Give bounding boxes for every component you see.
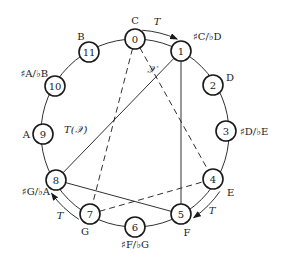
node-pc-2: 2D <box>203 72 234 95</box>
node-number: 8 <box>53 175 59 186</box>
node-number: 5 <box>178 209 184 220</box>
node-pc-3: 3♯D/♭E <box>216 121 268 141</box>
node-number: 10 <box>49 81 62 92</box>
node-number: 3 <box>223 126 229 137</box>
arrow-icon <box>194 191 220 217</box>
transposition-label: T <box>154 16 162 27</box>
note-name-label: ♯F/♭G <box>121 239 149 250</box>
note-name-label: F <box>184 227 191 238</box>
node-pc-7: 7G <box>80 204 100 237</box>
solid-edge-8-5 <box>56 180 181 214</box>
pitch-class-clock-diagram: TTT 0C1♯C/♭D2D3♯D/♭E4E5F6♯F/♭G7G8♯G/♭A9A… <box>0 0 284 266</box>
node-pc-1: 1♯C/♭D <box>171 31 222 61</box>
note-name-label: D <box>226 72 234 83</box>
dashed-edge-0-4 <box>135 39 213 179</box>
set-x-label: 𝒳 <box>147 64 159 75</box>
node-pc-8: 8♯G/♭A <box>22 170 66 197</box>
node-number: 1 <box>178 46 184 57</box>
node-pc-11: 11B <box>77 31 99 62</box>
note-name-label: ♯D/♭E <box>240 126 268 137</box>
node-number: 11 <box>83 47 96 58</box>
note-name-label: G <box>81 226 89 237</box>
note-name-label: E <box>227 187 234 198</box>
node-pc-9: 9A <box>22 124 53 144</box>
node-number: 6 <box>132 222 138 233</box>
note-name-label: C <box>131 15 139 26</box>
note-name-label: B <box>77 31 84 42</box>
node-pc-0: 0C <box>125 15 145 49</box>
node-number: 4 <box>210 174 216 185</box>
node-pc-6: 6♯F/♭G <box>121 217 149 250</box>
transposition-label: T <box>57 210 65 221</box>
node-number: 0 <box>132 34 138 45</box>
note-name-label: ♯C/♭D <box>193 31 222 42</box>
node-number: 9 <box>40 129 46 140</box>
arrow-icon <box>52 193 79 219</box>
note-name-label: ♯G/♭A <box>22 186 51 197</box>
node-pc-10: 10♯A/♭B <box>21 68 66 96</box>
transposition-label: T <box>209 205 217 216</box>
solid-edge-1-8 <box>56 51 181 180</box>
note-name-label: A <box>22 129 31 140</box>
node-number: 7 <box>87 209 93 220</box>
node-pc-5: 5F <box>171 204 191 238</box>
node-number: 2 <box>210 80 216 91</box>
dashed-edge-7-4 <box>90 179 213 214</box>
set-tx-label: T(𝒳) <box>64 124 88 135</box>
dashed-edge-0-7 <box>90 39 135 214</box>
arrow-icon <box>142 30 177 39</box>
note-name-label: ♯A/♭B <box>21 68 49 79</box>
